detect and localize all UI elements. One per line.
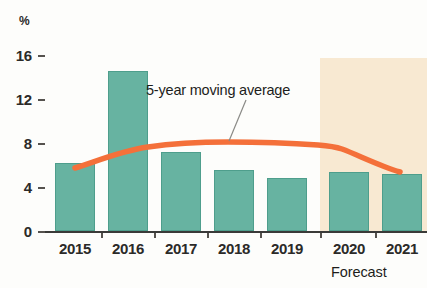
x-axis-line (45, 231, 427, 233)
x-tick-mark-6 (375, 233, 377, 238)
y-tick-mark-12 (38, 99, 45, 101)
x-tick-label-2019: 2019 (262, 240, 312, 257)
annotation-leader-line (229, 100, 246, 141)
x-tick-label-2015: 2015 (50, 240, 100, 257)
bar-2018 (214, 170, 254, 231)
forecast-region-label: Forecast (331, 264, 387, 280)
y-tick-label-12: 12 (0, 92, 32, 107)
bar-2015 (55, 163, 95, 231)
moving-average-annotation-label: 5-year moving average (146, 82, 290, 98)
x-tick-mark-5 (320, 233, 322, 238)
chart-container: % 16 12 8 4 0 2015 2016 2017 2018 2019 2… (0, 0, 427, 288)
x-tick-label-2016: 2016 (103, 240, 153, 257)
y-tick-label-0: 0 (0, 224, 32, 239)
x-tick-mark-2 (154, 233, 156, 238)
y-tick-label-8: 8 (0, 136, 32, 151)
x-tick-label-2021: 2021 (377, 240, 427, 257)
x-tick-mark-3 (207, 233, 209, 238)
x-tick-label-2017: 2017 (156, 240, 206, 257)
x-tick-mark-1 (101, 233, 103, 238)
x-tick-label-2018: 2018 (209, 240, 259, 257)
x-tick-label-2020: 2020 (324, 240, 374, 257)
bar-2021 (382, 174, 422, 231)
bar-2016 (108, 71, 148, 231)
bar-2017 (161, 152, 201, 231)
y-tick-label-16: 16 (0, 48, 32, 63)
x-tick-mark-4 (260, 233, 262, 238)
y-tick-mark-16 (38, 55, 45, 57)
bar-2019 (267, 178, 307, 231)
y-axis-unit-label: % (19, 14, 30, 28)
y-tick-mark-0 (38, 231, 45, 233)
y-tick-mark-4 (38, 187, 45, 189)
bar-2020 (329, 172, 369, 231)
y-tick-mark-8 (38, 143, 45, 145)
y-tick-label-4: 4 (0, 180, 32, 195)
